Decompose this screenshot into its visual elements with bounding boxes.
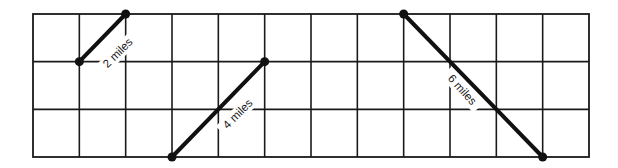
endpoint-dot [260, 57, 269, 66]
endpoint-dot [168, 153, 177, 162]
distance-labels: 2 miles4 miles6 miles [96, 31, 484, 136]
grid-lines [33, 14, 589, 157]
endpoint-dot [75, 57, 84, 66]
segment-4-miles-label: 4 miles [216, 92, 260, 136]
endpoint-dot [538, 153, 547, 162]
grid-diagram: 2 miles4 miles6 miles [0, 0, 618, 168]
segment-6-miles [404, 14, 543, 157]
endpoint-dot [399, 10, 408, 19]
endpoint-dot [121, 10, 130, 19]
distance-label-text: 2 miles [101, 35, 135, 69]
